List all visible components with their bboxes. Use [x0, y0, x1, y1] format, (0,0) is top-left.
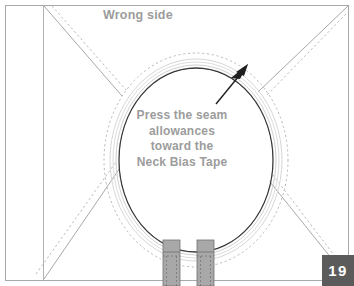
figure-illustration	[0, 0, 354, 286]
page-number-badge: 19	[322, 255, 354, 286]
neckline-opening	[120, 69, 272, 251]
bias-tape-end-left	[163, 240, 180, 286]
sewing-instruction-figure: Wrong side Press the seam allowances tow…	[0, 0, 354, 286]
bias-tape-end-right	[197, 240, 214, 286]
